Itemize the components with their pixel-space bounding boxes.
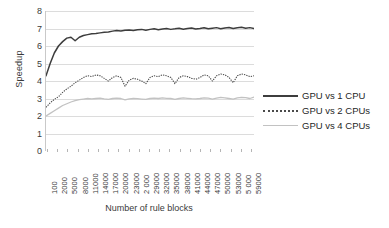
- legend-item: GPU vs 2 CPUs: [262, 103, 389, 118]
- x-axis-tick-label: 2 000: [142, 175, 151, 194]
- x-axis-tick-mark: [57, 149, 58, 152]
- x-axis-tick-label: 100: [50, 181, 59, 194]
- speedup-line-chart: Speedup 012345678 1002000500080001100014…: [0, 0, 389, 228]
- y-axis-tick-label: 8: [37, 7, 42, 16]
- legend-item-label: GPU vs 4 CPUs: [299, 120, 370, 131]
- series-line: [46, 74, 254, 107]
- x-axis-tick-label: 41000: [193, 173, 202, 194]
- legend-line-swatch-icon: [262, 106, 299, 116]
- plot-svg: [46, 11, 254, 151]
- plot-area: [45, 11, 254, 151]
- x-axis-tick-mark: [98, 149, 99, 152]
- x-axis-tick-label: 17000: [111, 173, 120, 194]
- x-axis-tick-mark: [159, 149, 160, 152]
- y-axis-tick-label: 0: [37, 147, 42, 156]
- x-axis-tick-mark: [200, 149, 201, 152]
- x-axis-tick-mark: [190, 149, 191, 152]
- x-axis-tick-label: 32000: [162, 173, 171, 194]
- x-axis-tick-mark: [139, 149, 140, 152]
- x-axis-tick-mark: [231, 149, 232, 152]
- x-axis-tick-label: 5 000: [244, 175, 253, 194]
- y-axis-tick-label: 2: [37, 112, 42, 121]
- x-axis-tick-label: 44000: [203, 173, 212, 194]
- y-axis-tick-label: 1: [37, 129, 42, 138]
- x-axis-tick-label: 11000: [91, 173, 100, 194]
- x-axis-tick-mark: [169, 149, 170, 152]
- x-axis-tick-mark: [108, 149, 109, 152]
- x-axis-tick-label: 35000: [172, 173, 181, 194]
- x-axis-tick-mark: [220, 149, 221, 152]
- x-axis-tick-label: 53000: [234, 173, 243, 194]
- x-axis-tick-mark: [118, 149, 119, 152]
- legend-swatch-line: [263, 110, 298, 112]
- y-axis-tick-label: 3: [37, 94, 42, 103]
- x-axis-tick-label: 23000: [132, 173, 141, 194]
- legend-line-swatch-icon: [262, 121, 299, 131]
- y-axis-tick-label: 6: [37, 42, 42, 51]
- x-axis-tick-label: 29000: [152, 173, 161, 194]
- x-axis-tick-mark: [67, 149, 68, 152]
- x-axis-tick-mark: [78, 149, 79, 152]
- y-axis-tick-label: 4: [37, 77, 42, 86]
- x-axis-tick-label: 8000: [81, 177, 90, 194]
- y-axis-title: Speedup: [14, 29, 24, 109]
- x-axis-title: Number of rule blocks: [45, 203, 253, 213]
- x-axis-tick-label: 38000: [183, 173, 192, 194]
- x-axis-tick-label: 20000: [121, 173, 130, 194]
- legend-swatch-line: [263, 125, 298, 126]
- legend-item-label: GPU vs 2 CPUs: [299, 105, 370, 116]
- gridlines: [46, 12, 254, 152]
- x-axis-tick-label: 14000: [101, 173, 110, 194]
- series-lines: [46, 27, 254, 116]
- x-axis-tick-mark: [129, 149, 130, 152]
- x-axis-tick-label: 2000: [60, 177, 69, 194]
- series-line: [46, 97, 254, 116]
- legend-line-swatch-icon: [262, 91, 299, 101]
- series-line: [46, 27, 254, 75]
- x-axis-tick-label: 5000: [70, 177, 79, 194]
- y-axis-tick-label: 5: [37, 59, 42, 68]
- x-axis-tick-labels: 1002000500080001100014000170002000023000…: [45, 152, 253, 200]
- x-axis-tick-mark: [210, 149, 211, 152]
- x-axis-tick-mark: [149, 149, 150, 152]
- y-axis-tick-label: 7: [37, 24, 42, 33]
- y-axis-tick-labels: 012345678: [27, 11, 42, 151]
- x-axis-tick-mark: [180, 149, 181, 152]
- x-axis-tick-mark: [88, 149, 89, 152]
- legend-item-label: GPU vs 1 CPU: [299, 90, 365, 101]
- legend-item: GPU vs 4 CPUs: [262, 118, 389, 133]
- legend-item: GPU vs 1 CPU: [262, 88, 389, 103]
- x-axis-tick-mark: [251, 149, 252, 152]
- x-axis-tick-label: 47000: [213, 173, 222, 194]
- x-axis-tick-mark: [241, 149, 242, 152]
- legend-swatch-line: [263, 95, 298, 97]
- x-axis-tick-label: 59000: [254, 173, 263, 194]
- x-axis-tick-mark: [47, 149, 48, 152]
- chart-legend: GPU vs 1 CPUGPU vs 2 CPUsGPU vs 4 CPUs: [262, 88, 389, 133]
- x-axis-tick-label: 50000: [223, 173, 232, 194]
